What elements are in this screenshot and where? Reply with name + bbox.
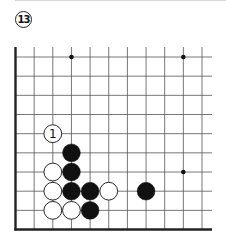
white-stone-disc	[100, 182, 118, 200]
black-stone	[63, 182, 81, 200]
black-stone-disc	[63, 182, 81, 200]
star-point	[69, 55, 74, 60]
black-stone-disc	[63, 144, 81, 162]
black-stone-disc	[81, 182, 99, 200]
star-point	[181, 55, 186, 60]
white-stone-disc	[63, 201, 81, 219]
white-stone	[44, 201, 62, 219]
black-stone-disc	[137, 182, 155, 200]
white-stone-disc	[44, 201, 62, 219]
white-stone-disc	[44, 163, 62, 181]
white-stone	[100, 182, 118, 200]
black-stone	[81, 182, 99, 200]
black-stone-disc	[63, 163, 81, 181]
black-stone-disc	[81, 201, 99, 219]
black-stone	[81, 201, 99, 219]
star-point	[181, 170, 186, 175]
white-stone: 1	[44, 125, 62, 143]
board-grid	[14, 47, 212, 231]
move-number-label: 1	[49, 127, 57, 141]
white-stone	[63, 201, 81, 219]
white-stone	[44, 182, 62, 200]
black-stone	[63, 163, 81, 181]
white-stone	[44, 163, 62, 181]
white-stone-disc	[44, 182, 62, 200]
black-stone	[63, 144, 81, 162]
black-stone	[137, 182, 155, 200]
go-board-diagram: 1	[0, 0, 226, 243]
